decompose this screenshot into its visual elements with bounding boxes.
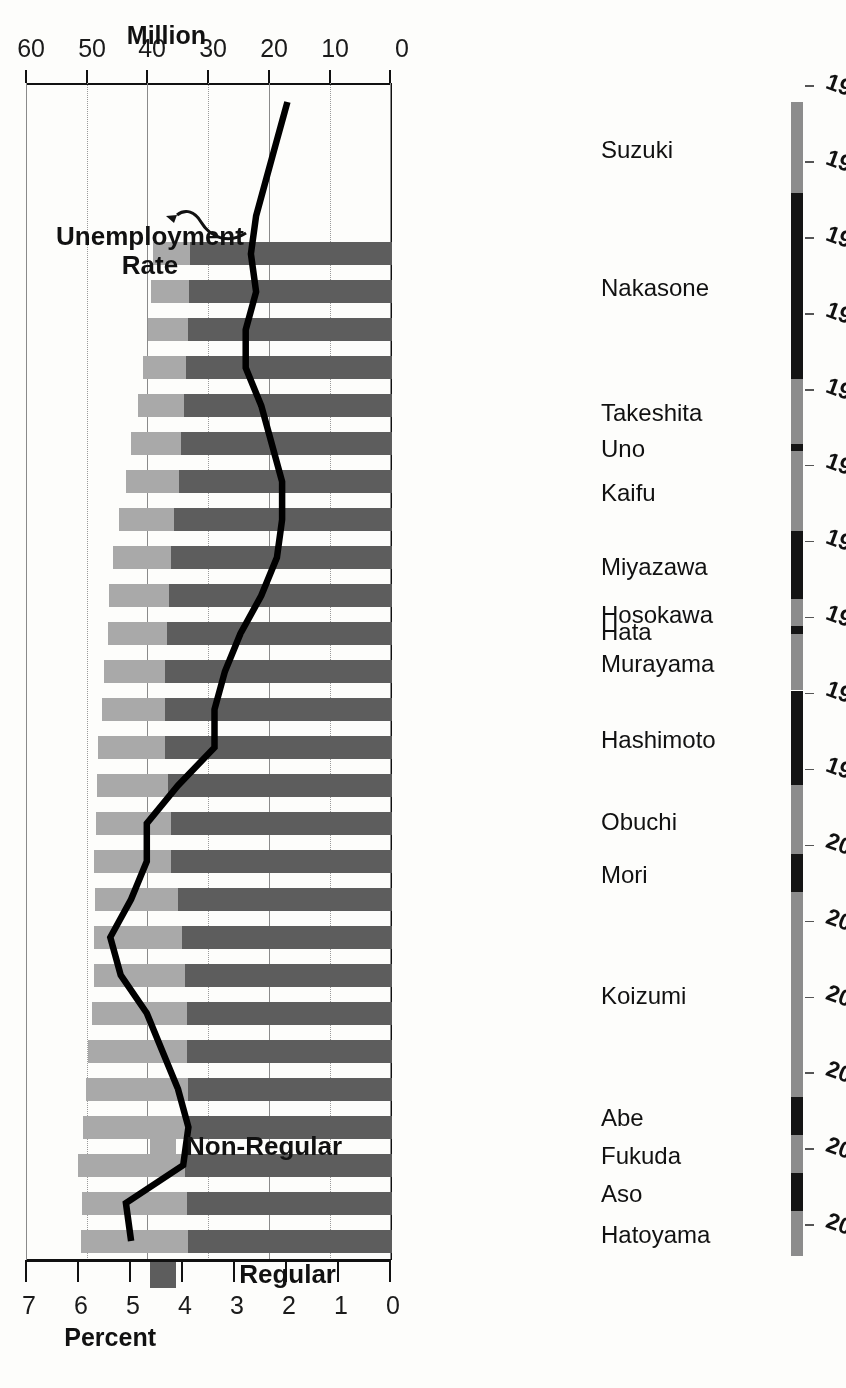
bar-segment-non-regular [104,660,165,683]
year-label-1982: 1982 [812,140,846,187]
pm-name-label: Hata [601,618,781,646]
pm-term-segment [791,1097,803,1135]
tick-mark-percent-5 [129,1260,131,1282]
tick-mark-percent-1 [337,1260,339,1282]
year-label-2010: 2010 [812,1203,846,1250]
pm-name-label: Fukuda [601,1142,781,1170]
pm-term-segment [791,1211,803,1257]
tick-label-percent-6: 6 [74,1291,88,1320]
bar-row [27,546,392,569]
bar-row [27,280,392,303]
bar-segment-regular [165,698,392,721]
tick-label-million-50: 50 [78,34,106,63]
bar-segment-regular [171,850,392,873]
bar-segment-non-regular [81,1230,188,1253]
bar-segment-regular [188,1078,392,1101]
year-label-1996: 1996 [812,671,846,718]
tick-label-percent-1: 1 [335,1291,349,1320]
pm-term-segment [791,892,803,1097]
tick-mark-percent-6 [77,1260,79,1282]
tick-label-percent-3: 3 [230,1291,244,1320]
bar-segment-non-regular [98,736,165,759]
unemployment-rate-annotation: Unemployment Rate [50,222,250,280]
tick-label-million-10: 10 [321,34,349,63]
year-label-2004: 2004 [812,975,846,1022]
pm-name-label: Hashimoto [601,726,781,754]
tick-label-percent-0: 0 [387,1291,401,1320]
pm-name-label: Takeshita [601,399,781,427]
bar-row [27,470,392,493]
bar-segment-regular [187,1192,392,1215]
bar-row [27,1002,392,1025]
year-label-2002: 2002 [812,899,846,946]
year-label-1990: 1990 [812,444,846,491]
pm-term-ribbon [791,102,803,1256]
bar-segment-regular [184,394,392,417]
bar-row [27,660,392,683]
pm-name-label: Koizumi [601,982,781,1010]
tick-label-percent-4: 4 [178,1291,192,1320]
bar-row [27,1192,392,1215]
bar-row [27,888,392,911]
pm-term-segment [791,626,803,634]
legend-label-regular: Regular [186,1259,336,1290]
bar-segment-non-regular [94,964,185,987]
bar-segment-non-regular [143,356,186,379]
bar-segment-regular [171,546,392,569]
tick-mark-percent-4 [181,1260,183,1282]
tick-mark-percent-0 [390,1260,392,1282]
bar-segment-non-regular [97,774,168,797]
annotation-line-2: Rate [50,251,250,280]
rotated-scan-container: 01234567 0102030405060 Percent Million S… [0,0,846,1388]
bar-segment-non-regular [94,926,182,949]
bar-segment-regular [165,660,392,683]
percent-axis-title: Percent [64,1323,156,1352]
pm-name-label: Mori [601,861,781,889]
bar-row [27,926,392,949]
bar-segment-non-regular [148,318,188,341]
bar-segment-non-regular [94,850,171,873]
tick-label-percent-2: 2 [282,1291,296,1320]
bar-segment-regular [182,926,392,949]
million-axis-title: Million [127,21,206,50]
bar-segment-regular [167,622,392,645]
pm-term-segment [791,531,803,599]
bar-row [27,394,392,417]
tick-label-million-0: 0 [396,34,410,63]
pm-term-segment [791,444,803,452]
tick-mark-percent-7 [25,1260,27,1282]
tick-mark-million-10 [329,70,331,83]
bar-segment-non-regular [95,888,178,911]
year-label-2006: 2006 [812,1051,846,1098]
year-label-1986: 1986 [812,292,846,339]
bar-segment-non-regular [108,622,167,645]
annotation-line-1: Unemployment [50,222,250,251]
pm-name-label: Kaifu [601,479,781,507]
pm-term-segment [791,102,803,193]
bar-row [27,1078,392,1101]
bar-segment-regular [188,1230,392,1253]
bar-row [27,812,392,835]
bar-row [27,584,392,607]
bar-row [27,850,392,873]
bar-segment-regular [169,584,392,607]
bar-segment-regular [185,964,392,987]
bar-segment-non-regular [109,584,169,607]
tick-label-percent-5: 5 [126,1291,140,1320]
pm-term-segment [791,451,803,531]
pm-name-label: Miyazawa [601,553,781,581]
bar-segment-regular [187,1040,392,1063]
legend-label-non-regular: Non-Regular [186,1131,336,1162]
tick-mark-million-30 [207,70,209,83]
tick-mark-million-0 [390,70,392,83]
bar-segment-non-regular [86,1078,188,1101]
pm-name-label: Suzuki [601,136,781,164]
bar-segment-non-regular [102,698,165,721]
pm-name-label: Uno [601,436,781,464]
bar-segment-regular [186,356,392,379]
employment-unemployment-combo-chart: 01234567 0102030405060 Percent Million S… [0,0,846,1388]
bar-segment-regular [171,812,392,835]
pm-term-segment [791,599,803,626]
bar-segment-non-regular [96,812,171,835]
tick-label-million-60: 60 [17,34,45,63]
